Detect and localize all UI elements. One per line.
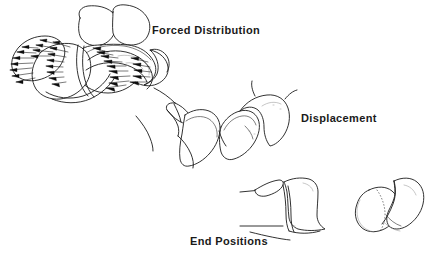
figure-artwork [0, 0, 432, 253]
displacement-panel [136, 81, 297, 168]
label-forced-distribution: Forced Distribution [152, 24, 260, 36]
forced-distribution-panel [10, 5, 169, 103]
end-positions-panel [240, 178, 424, 240]
superior-process-left [79, 6, 116, 46]
anatomy-figure: Forced Distribution Displacement End Pos… [0, 0, 432, 253]
lamina-process-b [285, 90, 297, 99]
label-displacement: Displacement [301, 112, 377, 124]
displaced-body-right [220, 110, 260, 159]
lamina-process-a [252, 81, 255, 96]
vertebral-body-inferior [32, 43, 91, 99]
pointed-process [255, 180, 283, 196]
displaced-body-central [180, 110, 220, 167]
end-body-lateral [284, 178, 325, 231]
label-end-positions: End Positions [190, 235, 268, 247]
superior-process-right [113, 5, 150, 45]
fracture-edge-left [136, 116, 153, 151]
superior-edge-line [154, 88, 175, 103]
